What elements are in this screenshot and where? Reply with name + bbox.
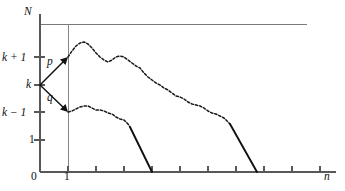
y-tick-label-one: 1 — [29, 134, 35, 146]
y-tick-label-k: k — [26, 79, 31, 91]
lower-walk-absorption-tail — [130, 127, 152, 172]
random-walk-figure: N k + 1 k k − 1 1 0 1 n p q — [0, 0, 345, 191]
y-axis-label: N — [24, 6, 32, 18]
y-tick-label-k-plus-1: k + 1 — [2, 52, 26, 64]
origin-label: 0 — [31, 171, 37, 183]
down-probability-label: q — [47, 92, 53, 104]
branch-arrow-down — [40, 85, 68, 112]
upper-walk-absorption-tail — [230, 124, 257, 172]
x-axis-ticks — [68, 166, 320, 172]
lower-walk-path — [68, 106, 130, 127]
up-probability-label: p — [47, 56, 53, 68]
x-axis-label: n — [324, 171, 330, 183]
y-tick-label-k-minus-1: k − 1 — [2, 107, 26, 119]
upper-walk-path — [68, 42, 230, 124]
branch-arrow-up — [40, 57, 68, 85]
x-tick-label-one: 1 — [64, 171, 70, 183]
